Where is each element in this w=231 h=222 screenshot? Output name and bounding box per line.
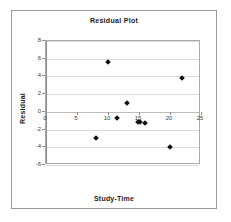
y-axis-tick-mark xyxy=(42,58,45,59)
y-axis-tick-mark xyxy=(42,111,45,112)
y-axis-tick-label: -6 xyxy=(19,161,41,167)
y-axis-tick-label: 8 xyxy=(19,37,41,43)
y-axis-tick-label: 4 xyxy=(19,72,41,78)
y-axis-tick-mark xyxy=(42,75,45,76)
y-axis-tick-mark xyxy=(42,129,45,130)
x-axis-tick-label: 25 xyxy=(190,115,210,121)
chart-title: Residual Plot xyxy=(12,17,216,24)
y-axis-tick-label: 2 xyxy=(19,90,41,96)
x-axis-tick-label: 20 xyxy=(159,115,179,121)
y-axis-tick-label: 6 xyxy=(19,55,41,61)
gridline xyxy=(46,94,199,95)
x-axis-label: Study-Time xyxy=(12,195,216,202)
residual-scatter-chart: Residual Plot Residual Study-Time -6-4-2… xyxy=(12,11,216,208)
data-point xyxy=(105,59,111,65)
y-axis-tick-label: 0 xyxy=(19,108,41,114)
x-axis-tick-label: 15 xyxy=(128,115,148,121)
gridline xyxy=(46,147,199,148)
x-axis-tick-label: 10 xyxy=(97,115,117,121)
y-axis-tick-mark xyxy=(42,146,45,147)
y-axis-tick-mark xyxy=(42,40,45,41)
gridline xyxy=(46,59,199,60)
data-point xyxy=(167,144,173,150)
gridline xyxy=(46,165,199,166)
data-point xyxy=(124,100,130,106)
y-axis-tick-label: -2 xyxy=(19,126,41,132)
plot-area xyxy=(45,40,200,164)
zero-gridline xyxy=(46,112,199,113)
chart-frame: Residual Plot Residual Study-Time -6-4-2… xyxy=(11,10,217,209)
data-point xyxy=(93,136,99,142)
x-axis-tick-label: 5 xyxy=(66,115,86,121)
data-point xyxy=(142,121,148,127)
gridline xyxy=(46,130,199,131)
x-axis-tick-label: 0 xyxy=(35,115,55,121)
y-axis-tick-label: -4 xyxy=(19,143,41,149)
y-axis-tick-mark xyxy=(42,93,45,94)
y-axis-tick-mark xyxy=(42,164,45,165)
gridline xyxy=(46,76,199,77)
y-axis-line xyxy=(46,41,47,163)
gridline xyxy=(46,41,199,42)
